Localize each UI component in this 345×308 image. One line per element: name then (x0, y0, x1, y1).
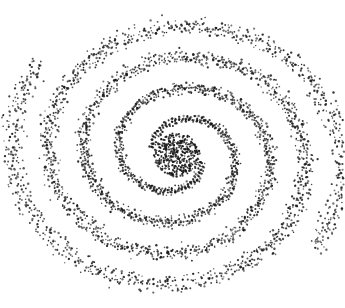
spiral-stipple-image (0, 0, 345, 308)
